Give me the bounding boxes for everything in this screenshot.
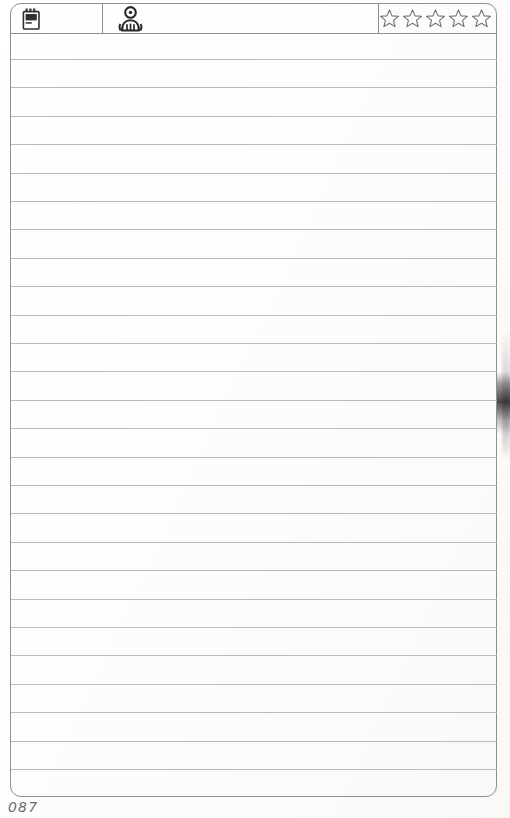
- star-icon-1[interactable]: [379, 8, 400, 29]
- header-bottom-rule: [11, 33, 497, 34]
- page-sheet: [10, 3, 497, 797]
- scan-edge-smudge: [497, 372, 510, 434]
- notepad-icon: [22, 8, 41, 30]
- star-icon-3[interactable]: [425, 8, 446, 29]
- person-avatar-icon: [118, 6, 143, 32]
- header-cell-avatar[interactable]: [103, 4, 378, 33]
- star-icon-2[interactable]: [402, 8, 423, 29]
- header-cell-notepad[interactable]: [11, 4, 102, 33]
- star-rating[interactable]: [379, 4, 496, 33]
- star-icon-4[interactable]: [448, 8, 469, 29]
- star-icon-5[interactable]: [471, 8, 492, 29]
- page-header-row: [11, 4, 496, 33]
- page-number: 087: [8, 799, 38, 815]
